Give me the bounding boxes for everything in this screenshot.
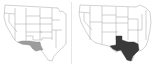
map-right-texas: [76, 0, 157, 67]
us-map-left: [0, 0, 70, 67]
us-map-right: [76, 0, 157, 67]
panel-divider: [71, 2, 72, 64]
map-left-southern-border: [0, 0, 70, 67]
us-outline: [4, 5, 66, 61]
